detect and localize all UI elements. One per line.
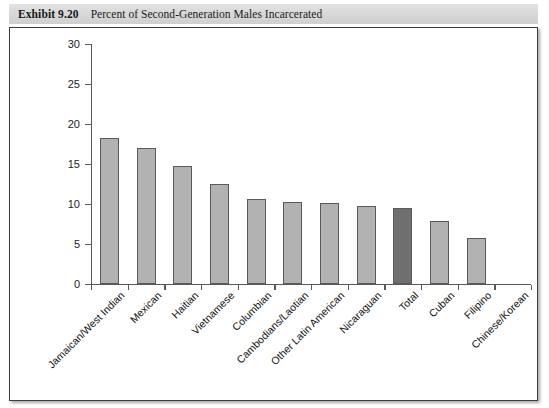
plot-area: 051015202530 Jamaican/West IndianMexican… (10, 28, 539, 402)
chart-frame: 051015202530 Jamaican/West IndianMexican… (9, 27, 538, 401)
exhibit-caption-band: Exhibit 9.20 Percent of Second-Generatio… (9, 4, 538, 24)
y-axis-tick-label: 0 (54, 278, 80, 290)
x-axis-category-labels: Jamaican/West IndianMexicanHaitianVietna… (91, 289, 539, 401)
exhibit-number-label: Exhibit 9.20 (18, 8, 79, 20)
y-axis-tick-label: 15 (54, 158, 80, 170)
y-axis-tick-label: 25 (54, 78, 80, 90)
bar (357, 206, 376, 284)
bar-series (91, 44, 531, 284)
bar (430, 221, 449, 284)
bar (137, 148, 156, 284)
bar (393, 208, 412, 284)
y-axis-tick-label: 5 (54, 238, 80, 250)
bar (320, 203, 339, 284)
y-axis-tick-label: 30 (54, 38, 80, 50)
bar (210, 184, 229, 284)
exhibit-page: Exhibit 9.20 Percent of Second-Generatio… (0, 0, 549, 408)
exhibit-title: Percent of Second-Generation Males Incar… (91, 8, 323, 20)
bar (247, 199, 266, 284)
y-axis-tick-label: 10 (54, 198, 80, 210)
y-axis-tick-label: 20 (54, 118, 80, 130)
bar (100, 138, 119, 284)
bar (173, 166, 192, 284)
bar (283, 202, 302, 284)
bar (467, 238, 486, 284)
